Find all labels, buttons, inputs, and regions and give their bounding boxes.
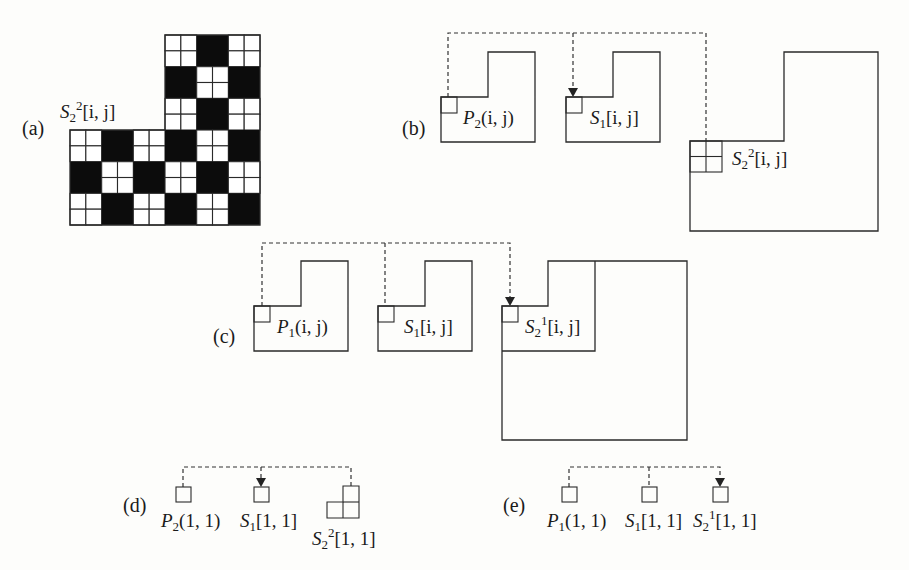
part-a-label: (a): [22, 117, 44, 140]
white-cell: [213, 67, 229, 83]
white-cell: [228, 178, 244, 194]
s1-cell: [254, 487, 269, 502]
white-cell: [181, 178, 197, 194]
white-cell: [149, 146, 165, 162]
white-cell: [213, 130, 229, 146]
white-cell: [165, 162, 181, 178]
p1-label: P1(1, 1): [546, 510, 606, 534]
white-cell: [149, 130, 165, 146]
white-cell: [244, 114, 260, 130]
p2-cell: [176, 487, 191, 502]
white-cell: [228, 98, 244, 114]
white-cell: [133, 209, 149, 225]
p1-cell: [254, 306, 270, 322]
white-cell: [197, 146, 213, 162]
white-cell: [181, 35, 197, 51]
black-block: [197, 35, 229, 67]
white-cell: [228, 35, 244, 51]
white-cell: [70, 146, 86, 162]
white-cell: [86, 146, 102, 162]
white-cell: [70, 209, 86, 225]
white-cell: [197, 83, 213, 99]
part-b: (b) P2(i, j) S1[i, j] S22[i, j]: [402, 33, 878, 231]
part-d: (d) P2(1, 1) S1[1, 1] S22[1, 1]: [123, 467, 376, 552]
arrow-down-icon: [256, 478, 266, 487]
white-cell: [102, 162, 118, 178]
dashed-connector: [262, 243, 510, 306]
black-block: [197, 162, 229, 194]
white-cell: [86, 130, 102, 146]
white-cell: [181, 162, 197, 178]
white-cell: [197, 209, 213, 225]
white-cell: [165, 178, 181, 194]
white-cell: [181, 51, 197, 67]
white-cell: [244, 51, 260, 67]
black-block: [133, 162, 165, 194]
white-cell: [228, 114, 244, 130]
black-block: [197, 98, 229, 130]
white-cell: [165, 114, 181, 130]
part-a-matrix-label: S22[i, j]: [60, 98, 115, 125]
arrow-down-icon: [715, 478, 725, 487]
s2-first-label: S21[i, j]: [525, 313, 580, 340]
white-cell: [228, 51, 244, 67]
white-cell: [86, 209, 102, 225]
white-cell: [133, 130, 149, 146]
black-block: [102, 193, 134, 225]
white-cell: [197, 193, 213, 209]
white-cell: [244, 98, 260, 114]
white-cell: [102, 178, 118, 194]
white-cell: [70, 130, 86, 146]
white-cell: [165, 51, 181, 67]
p1-label: P1(i, j): [276, 316, 328, 340]
s2-first-cell: [502, 306, 518, 322]
black-block: [228, 130, 260, 162]
s2-squared-label: S22[i, j]: [732, 145, 787, 172]
black-block: [70, 162, 102, 194]
black-block: [102, 130, 134, 162]
p2-label: P2(1, 1): [160, 510, 220, 534]
white-cell: [133, 193, 149, 209]
white-cell: [118, 162, 134, 178]
s2-first-label: S21[1, 1]: [693, 507, 757, 534]
part-a: (a) S22[i, j]: [22, 35, 260, 225]
white-cell: [213, 146, 229, 162]
s2-first-cell: [713, 487, 728, 502]
black-block: [165, 193, 197, 225]
white-cell: [213, 209, 229, 225]
white-cell: [197, 67, 213, 83]
s1-cell: [566, 97, 582, 113]
arrow-down-icon: [568, 88, 578, 97]
black-block: [165, 130, 197, 162]
part-e: (e) P1(1, 1) S1[1, 1] S21[1, 1]: [503, 467, 757, 534]
p2-label: P2(i, j): [462, 107, 514, 131]
white-cell: [149, 209, 165, 225]
s1-cell: [378, 306, 394, 322]
white-cell: [181, 98, 197, 114]
figure-canvas: (a) S22[i, j] (b) P2(i, j) S1[i, j] S22[…: [0, 0, 909, 570]
white-cell: [228, 162, 244, 178]
black-block: [165, 67, 197, 99]
s1-label: S1[1, 1]: [625, 510, 682, 534]
white-cell: [70, 193, 86, 209]
checkerboard-grid: [70, 35, 260, 225]
s1-label: S1[1, 1]: [240, 510, 297, 534]
white-cell: [244, 178, 260, 194]
part-c: (c) P1(i, j) S1[i, j] S21[i, j]: [213, 243, 687, 440]
white-cell: [213, 83, 229, 99]
white-cell: [181, 114, 197, 130]
white-cell: [133, 146, 149, 162]
white-cell: [197, 130, 213, 146]
white-cell: [244, 162, 260, 178]
part-d-label: (d): [123, 494, 146, 517]
p1-cell: [562, 487, 577, 502]
arrow-down-icon: [505, 297, 515, 306]
white-cell: [244, 35, 260, 51]
s1-label: S1[i, j]: [590, 107, 639, 131]
dashed-connector: [569, 467, 720, 487]
white-cell: [86, 193, 102, 209]
white-cell: [118, 178, 134, 194]
dashed-connector: [183, 467, 351, 487]
s2-squared-label: S22[1, 1]: [312, 525, 376, 552]
white-cell: [165, 98, 181, 114]
